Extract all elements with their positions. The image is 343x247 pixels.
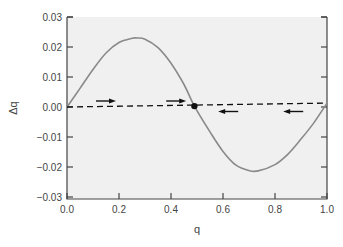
y-tick-label: 0.01 xyxy=(43,72,63,83)
x-tick-label: 0.8 xyxy=(268,204,282,215)
y-tick-label: −0.03 xyxy=(37,192,63,203)
y-axis-label: Δq xyxy=(7,101,19,114)
y-tick-label: 0.03 xyxy=(43,12,63,23)
x-tick-label: 0.2 xyxy=(112,204,126,215)
y-tick-label: −0.02 xyxy=(37,162,63,173)
x-tick-label: 1.0 xyxy=(320,204,334,215)
plot-area xyxy=(67,17,327,199)
x-axis-label: q xyxy=(194,223,200,235)
x-tick-label: 0.4 xyxy=(164,204,178,215)
y-tick-label: −0.01 xyxy=(37,132,63,143)
x-tick-label: 0.0 xyxy=(60,204,74,215)
equilibrium-point xyxy=(191,103,197,109)
y-tick-label: 0.00 xyxy=(43,102,63,113)
y-tick-label: 0.02 xyxy=(43,42,63,53)
chart: 0.030.020.010.00−0.01−0.02−0.03 0.00.20.… xyxy=(0,0,343,247)
x-tick-label: 0.6 xyxy=(216,204,230,215)
